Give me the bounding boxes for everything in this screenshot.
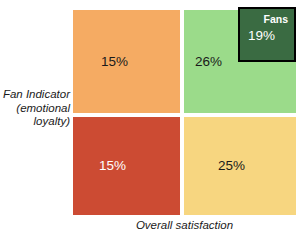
quadrant-bottom-left-value: 15% <box>99 158 126 173</box>
y-axis-label-line-2: (emotional <box>0 102 70 116</box>
y-axis-label-line-3: loyalty) <box>0 115 70 129</box>
quadrant-top-left[interactable]: 15% <box>73 10 180 113</box>
matrix-grid: 15% 26% 15% 25% Fans 19% <box>73 10 296 215</box>
y-axis-label-line-1: Fan Indicator <box>0 88 70 102</box>
quadrant-bottom-right-value: 25% <box>218 158 245 173</box>
quadrant-bottom-left[interactable]: 15% <box>73 117 180 215</box>
y-axis-label: Fan Indicator (emotional loyalty) <box>0 88 70 129</box>
fans-highlight-segment[interactable]: Fans 19% <box>238 7 296 62</box>
quadrant-top-right-value: 26% <box>195 54 222 69</box>
quadrant-bottom-right[interactable]: 25% <box>184 117 296 215</box>
x-axis-label: Overall satisfaction <box>73 219 296 233</box>
fans-segment-value: 19% <box>246 26 288 46</box>
quadrant-matrix-chart: Fan Indicator (emotional loyalty) 15% 26… <box>0 0 303 239</box>
fans-segment-label: Fans <box>246 13 288 26</box>
quadrant-top-left-value: 15% <box>101 54 128 69</box>
